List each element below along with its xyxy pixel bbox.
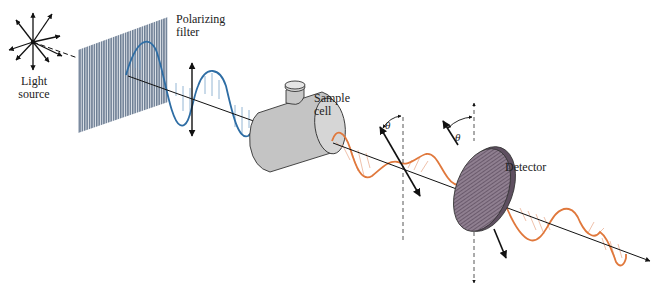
polarizing-filter-label: Polarizing filter bbox=[176, 13, 225, 39]
polarizing-filter bbox=[78, 17, 168, 133]
theta-label-2: θ bbox=[455, 131, 460, 143]
sample-cell-label-line2: cell bbox=[314, 105, 350, 118]
light-source-label-line2: source bbox=[17, 88, 51, 101]
angle-arc-2 bbox=[448, 117, 472, 128]
rotated-plane-arrow-1 bbox=[380, 127, 420, 196]
light-source-label: Light source bbox=[17, 75, 51, 101]
detector bbox=[443, 138, 527, 239]
light-source-icon bbox=[9, 13, 62, 70]
rotated-plane-arrow-2-bottom bbox=[494, 229, 506, 258]
sample-cell-label: Sample cell bbox=[314, 92, 350, 118]
polarimeter-diagram: Light source Polarizing filter Sample ce… bbox=[0, 0, 658, 301]
theta-label-1: θ bbox=[385, 119, 390, 131]
detector-label: Detector bbox=[505, 161, 546, 174]
polarizing-filter-label-line2: filter bbox=[176, 26, 225, 39]
diagram-canvas bbox=[0, 0, 658, 301]
